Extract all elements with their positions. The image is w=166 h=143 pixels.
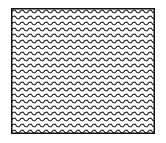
zigzag-fill (11, 8, 155, 134)
zigzag-pattern-svg (11, 8, 155, 134)
zigzag-pattern-box (11, 8, 155, 134)
